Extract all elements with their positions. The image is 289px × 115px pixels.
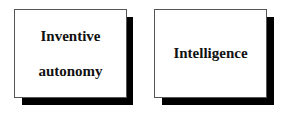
inventive-autonomy-box: Inventive autonomy bbox=[14, 9, 127, 98]
box-label: Intelligence bbox=[173, 46, 247, 61]
intelligence-box: Intelligence bbox=[154, 9, 267, 98]
box-label-line-2: autonomy bbox=[38, 64, 102, 79]
box-label-line-1: Inventive bbox=[41, 29, 101, 44]
